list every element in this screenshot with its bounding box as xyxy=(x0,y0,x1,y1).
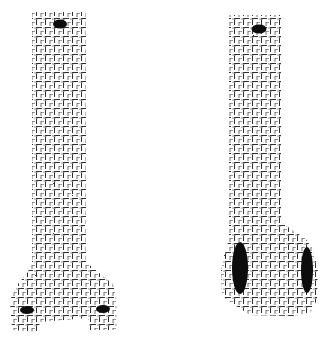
left-top-spot xyxy=(53,20,67,29)
right-top-spot xyxy=(252,25,267,34)
left-specimen xyxy=(10,12,117,332)
left-bottom-left-spot xyxy=(20,306,34,314)
left-bottom-right-spot xyxy=(96,305,110,313)
figure-canvas xyxy=(0,0,328,337)
right-large-right-spot xyxy=(301,247,313,293)
right-specimen xyxy=(221,15,318,316)
right-large-left-spot xyxy=(232,242,248,294)
left-specimen-body-overlay xyxy=(10,12,117,332)
